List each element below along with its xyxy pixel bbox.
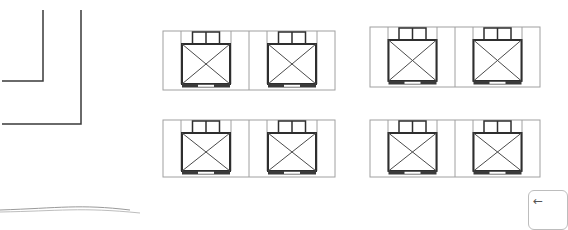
group-bottom-left	[163, 120, 335, 177]
group-top-right	[370, 27, 540, 87]
workstation[interactable]	[389, 121, 437, 175]
desk-base-slot	[490, 82, 506, 84]
walls	[2, 10, 81, 124]
workstation[interactable]	[182, 121, 230, 175]
workstation[interactable]	[268, 121, 316, 175]
desk-base-slot	[284, 85, 300, 87]
outer-wall	[2, 10, 81, 124]
workstation[interactable]	[474, 121, 522, 175]
desk-base-slot	[405, 82, 421, 84]
floor-edge-curve	[0, 207, 140, 213]
arrow-left-icon: ←	[533, 195, 543, 207]
desk-base-slot	[198, 85, 214, 87]
desk-base-slot	[284, 172, 300, 174]
workstation[interactable]	[389, 28, 437, 85]
desk-base-slot	[405, 172, 421, 174]
desk-base-slot	[198, 172, 214, 174]
workstation-groups	[163, 27, 540, 177]
workstation[interactable]	[474, 28, 522, 85]
back-button[interactable]: ←	[528, 190, 568, 230]
inner-wall	[2, 10, 43, 81]
workstation[interactable]	[268, 32, 316, 88]
group-bottom-right	[370, 120, 540, 177]
desk-base-slot	[490, 172, 506, 174]
workstation[interactable]	[182, 32, 230, 88]
group-top-left	[163, 31, 335, 90]
